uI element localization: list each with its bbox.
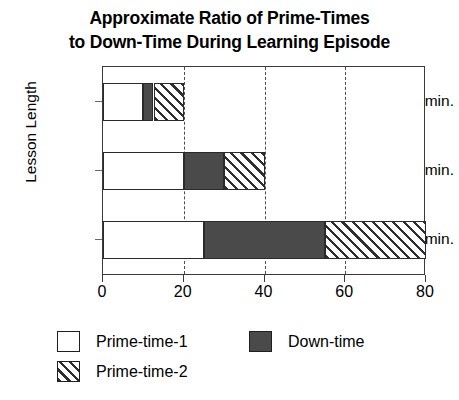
- bar-segment-prime-time-2: [154, 83, 184, 121]
- legend-swatch-down-time: [249, 331, 272, 352]
- legend-item-prime-time-2: Prime-time-2: [57, 361, 188, 382]
- bar-segment-prime-time-2: [325, 221, 426, 259]
- y-axis-tick-80min: [95, 239, 102, 240]
- legend-label-prime-time-1: Prime-time-1: [96, 333, 188, 351]
- x-axis-label-0: 0: [82, 283, 122, 301]
- chart-title-line-2: to Down-Time During Learning Episode: [0, 30, 459, 54]
- legend-swatch-prime-time-2: [57, 361, 80, 382]
- y-axis-tick-20min: [95, 101, 102, 102]
- legend-label-prime-time-2: Prime-time-2: [96, 363, 188, 381]
- chart-legend: Prime-time-1 Prime-time-2 Down-time: [0, 327, 459, 393]
- y-axis-title: Lesson Length: [22, 57, 40, 207]
- x-axis-tick-80: [425, 275, 426, 282]
- bar-segment-down-time: [143, 83, 153, 121]
- bar-segment-down-time: [204, 221, 325, 259]
- x-axis-tick-20: [183, 275, 184, 282]
- x-axis-label-20: 20: [163, 283, 203, 301]
- bar-segment-prime-time-2: [224, 152, 264, 190]
- legend-swatch-prime-time-1: [57, 331, 80, 352]
- legend-item-down-time: Down-time: [249, 331, 364, 352]
- x-axis-tick-0: [102, 275, 103, 282]
- chart-title: Approximate Ratio of Prime-Times to Down…: [0, 6, 459, 54]
- y-axis-tick-40min: [95, 170, 102, 171]
- legend-item-prime-time-1: Prime-time-1: [57, 331, 188, 352]
- x-axis-label-40: 40: [244, 283, 284, 301]
- bar-segment-prime-time-1: [103, 83, 143, 121]
- bar-segment-prime-time-1: [103, 152, 184, 190]
- x-axis-tick-60: [344, 275, 345, 282]
- plot-area: [102, 66, 425, 275]
- x-axis-tick-40: [264, 275, 265, 282]
- x-axis-label-60: 60: [324, 283, 364, 301]
- legend-label-down-time: Down-time: [288, 333, 364, 351]
- chart-title-line-1: Approximate Ratio of Prime-Times: [0, 6, 459, 30]
- x-axis-label-80: 80: [405, 283, 445, 301]
- bar-segment-down-time: [184, 152, 224, 190]
- bar-segment-prime-time-1: [103, 221, 204, 259]
